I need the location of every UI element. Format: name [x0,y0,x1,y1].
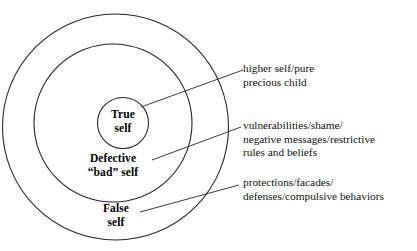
ring-label-defective-self-line-2: “bad” self [63,166,163,180]
ring-label-true-self-line-2: self [98,122,148,136]
ring-label-true-self-line-1: True [98,108,148,122]
annotation-true-self: higher self/pure precious child [243,62,314,89]
annotation-defective-self-line-2: negative messages/restrictive [243,133,375,147]
annotation-defective-self-line-1: vulnerabilities/shame/ [243,119,375,133]
diagram-page: True self Defective “bad” self False sel… [0,0,417,251]
annotation-false-self-line-2: defenses/compulsive behaviors [243,190,384,204]
annotation-true-self-line-1: higher self/pure [243,62,314,76]
ring-label-false-self-line-1: False [86,202,146,216]
ring-label-defective-self-line-1: Defective [63,152,163,166]
annotation-false-self: protections/facades/ defenses/compulsive… [243,176,384,203]
annotation-defective-self-line-3: rules and beliefs [243,146,375,160]
ring-label-defective-self: Defective “bad” self [63,152,163,179]
leader-line-false-self [140,185,239,212]
leader-line-true-self [141,70,243,107]
ring-label-true-self: True self [98,108,148,135]
annotation-true-self-line-2: precious child [243,76,314,90]
annotation-defective-self: vulnerabilities/shame/ negative messages… [243,119,375,160]
ring-label-false-self: False self [86,202,146,229]
ring-label-false-self-line-2: self [86,216,146,230]
annotation-false-self-line-1: protections/facades/ [243,176,384,190]
